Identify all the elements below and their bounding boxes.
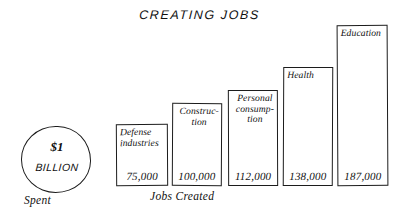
spending-circle: $1 BILLION <box>21 126 91 193</box>
bar-defense-industries: Defense industries 75,000 <box>116 124 168 186</box>
bar-construction: Construc-tion 100,000 <box>172 103 222 186</box>
bar-label: Construc-tion <box>175 106 223 127</box>
bar-health: Health 138,000 <box>283 67 334 186</box>
chart-figure: CREATING JOBS $1 BILLION Spent Defense i… <box>0 0 399 216</box>
bar-education: Education 187,000 <box>337 25 389 186</box>
spending-caption: Spent <box>24 194 51 206</box>
bar-value: 112,000 <box>229 170 277 182</box>
bar-label: Personal consump-tion <box>231 93 279 125</box>
bar-value: 100,000 <box>173 170 221 182</box>
page-title: CREATING JOBS <box>0 8 399 22</box>
bar-label: Health <box>287 70 333 81</box>
spending-annotation: $1 BILLION <box>21 126 91 193</box>
spending-unit: BILLION <box>22 161 93 173</box>
bar-label: Defense industries <box>120 127 166 148</box>
spending-amount: $1 <box>22 139 92 155</box>
bar-value: 138,000 <box>284 170 332 182</box>
bar-value: 75,000 <box>117 170 167 182</box>
bar-personal-consumption: Personal consump-tion 112,000 <box>228 90 278 186</box>
bar-label: Education <box>341 28 387 39</box>
x-axis-label: Jobs Created <box>150 190 214 202</box>
bar-value: 187,000 <box>338 170 387 182</box>
